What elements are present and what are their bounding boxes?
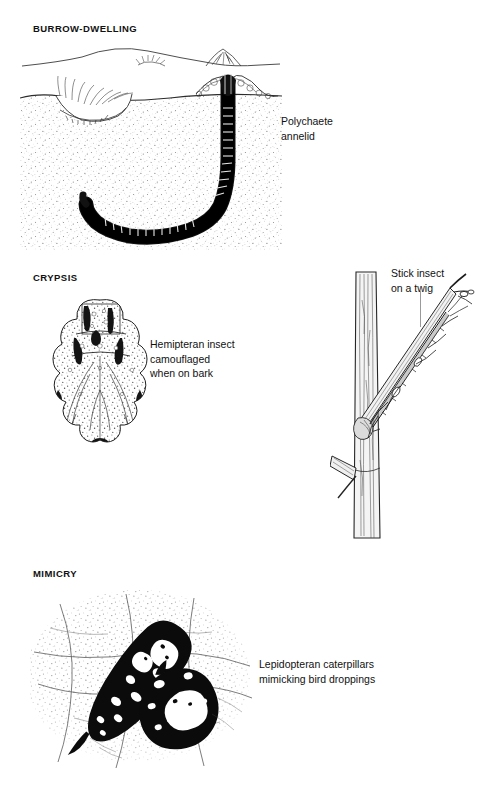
section-heading-mimicry: MIMICRY: [33, 568, 77, 579]
caption-lepidopteran-caterpillars: Lepidopteran caterpillars mimicking bird…: [259, 657, 375, 686]
concealment-strategies-figure: BURROW-DWELLING: [0, 0, 479, 798]
caption-hemipteran-insect: Hemipteran insect camouflaged when on ba…: [150, 337, 235, 381]
section-heading-crypsis: CRYPSIS: [33, 272, 78, 283]
illustration-burrow-dwelling: [20, 38, 282, 250]
illustration-caterpillars-mimicking-bird-droppings: [30, 588, 255, 774]
caption-polychaete-annelid: Polychaete annelid: [281, 114, 333, 143]
section-heading-burrow-dwelling: BURROW-DWELLING: [33, 23, 137, 34]
illustration-hemipteran-insect: [36, 294, 166, 522]
illustration-stick-insect-on-twig: [330, 270, 479, 540]
